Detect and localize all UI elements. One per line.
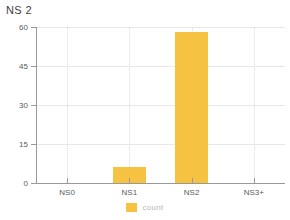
- x-axis-line: [36, 183, 285, 184]
- x-tick-label: NS0: [59, 188, 75, 197]
- x-tick-mark: [67, 178, 68, 183]
- y-tick-label: 45: [19, 62, 28, 71]
- chart-title: NS 2: [6, 4, 32, 16]
- y-tick-label: 60: [19, 23, 28, 32]
- gridline-horizontal: [36, 144, 285, 145]
- y-tick-mark: [31, 144, 36, 145]
- bar-chart: NS 2 015304560 NS0NS1NS2NS3+ count: [0, 0, 290, 220]
- y-tick-mark: [31, 183, 36, 184]
- gridline-vertical: [254, 27, 255, 183]
- chart-legend: count: [0, 203, 290, 212]
- x-tick-mark: [129, 178, 130, 183]
- y-tick-mark: [31, 66, 36, 67]
- bar-ns2[interactable]: [175, 32, 207, 183]
- x-tick-mark: [192, 178, 193, 183]
- legend-label-count: count: [142, 203, 163, 212]
- y-tick-mark: [31, 105, 36, 106]
- x-tick-label: NS1: [122, 188, 138, 197]
- x-tick-mark: [254, 178, 255, 183]
- y-tick-label: 15: [19, 140, 28, 149]
- x-tick-label: NS3+: [244, 188, 264, 197]
- y-tick-label: 0: [24, 179, 28, 188]
- gridline-vertical: [67, 27, 68, 183]
- gridline-horizontal: [36, 66, 285, 67]
- gridline-vertical: [129, 27, 130, 183]
- y-tick-label: 30: [19, 101, 28, 110]
- y-axis-line: [36, 27, 37, 184]
- plot-area: [36, 27, 285, 183]
- legend-swatch-count: [126, 203, 137, 212]
- gridline-horizontal: [36, 105, 285, 106]
- x-tick-label: NS2: [184, 188, 200, 197]
- y-tick-mark: [31, 27, 36, 28]
- gridline-horizontal: [36, 27, 285, 28]
